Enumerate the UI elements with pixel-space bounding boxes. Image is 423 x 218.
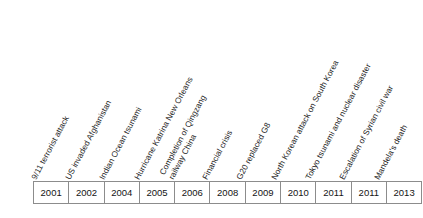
year-cell-2009: 2009 xyxy=(245,182,280,204)
year-cell-2011-syria: 2011 xyxy=(351,182,386,204)
year-table: 2001 2002 2004 2005 2006 2008 2009 2010 … xyxy=(33,181,422,204)
table-row: 2001 2002 2004 2005 2006 2008 2009 2010 … xyxy=(34,182,422,204)
event-label-2008: Financial crisis xyxy=(201,129,235,181)
event-label-2011-tokyo: Tokyo tsunami and nuclear disaster xyxy=(304,62,373,181)
year-cell-2001: 2001 xyxy=(34,182,69,204)
year-cell-2004: 2004 xyxy=(104,182,139,204)
event-label-2001: 9/11 terrorist attack xyxy=(30,114,71,181)
event-label-2013: Mandela's death xyxy=(373,123,410,181)
event-label-line: G20 replaced G8 xyxy=(235,121,273,181)
year-cell-2002: 2002 xyxy=(69,182,104,204)
event-label-line: Financial crisis xyxy=(201,129,235,181)
event-label-line: Mandela's death xyxy=(373,123,410,181)
year-cell-2005: 2005 xyxy=(139,182,174,204)
events-timeline-figure: 9/11 terrorist attack US invaded Afghani… xyxy=(0,0,423,218)
year-cell-2013: 2013 xyxy=(386,182,421,204)
event-label-2009: G20 replaced G8 xyxy=(235,121,273,181)
event-label-line: Tokyo tsunami and nuclear disaster xyxy=(304,62,373,181)
event-labels-layer: 9/11 terrorist attack US invaded Afghani… xyxy=(0,0,423,181)
year-cell-2006: 2006 xyxy=(175,182,210,204)
event-label-line: 9/11 terrorist attack xyxy=(30,114,71,181)
year-cell-2010: 2010 xyxy=(281,182,316,204)
year-cell-2008: 2008 xyxy=(210,182,245,204)
event-label-line: North Korean attack on South Korea xyxy=(270,59,341,181)
event-label-2010: North Korean attack on South Korea xyxy=(270,59,341,181)
year-cell-2011-tokyo: 2011 xyxy=(316,182,351,204)
